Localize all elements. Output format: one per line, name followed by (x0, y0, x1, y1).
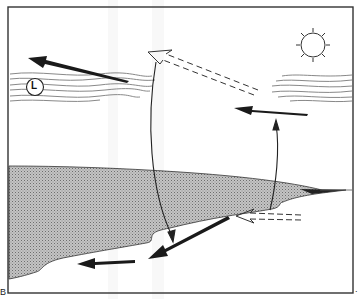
corner-label-right: . (355, 285, 358, 294)
corner-label-left: B (0, 288, 6, 297)
low-pressure-label: L (31, 81, 37, 91)
cloud-right (272, 75, 352, 102)
lower-left-wind-arrow (77, 258, 135, 269)
sun-icon (296, 28, 330, 62)
upper-return-flow-arrow (148, 50, 258, 95)
mid-right-wind-arrow (234, 106, 308, 116)
land-mass (9, 166, 352, 279)
sea-breeze-diagram (0, 0, 358, 299)
